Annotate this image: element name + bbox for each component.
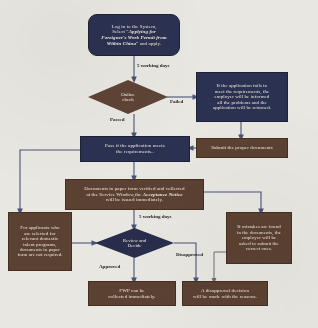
online-check-text: Online check bbox=[121, 92, 135, 103]
submit-line-1: Submit the proper documents bbox=[211, 145, 273, 151]
edge-review-disapproved bbox=[174, 243, 196, 281]
node-review-decide: Review and Decide bbox=[95, 228, 174, 258]
node-application-fails: If the application fails to meet the req… bbox=[196, 72, 288, 122]
node-online-check: Online check bbox=[88, 80, 168, 114]
exempt-line-6: form are not required. bbox=[17, 252, 62, 257]
mistakes-line-5: correct ones. bbox=[237, 246, 281, 251]
node-mistakes-found: If mistakes are found in the documents, … bbox=[226, 212, 292, 264]
fails-line-5: application will be returned. bbox=[213, 105, 271, 110]
node-disapproval-decision: A disapproval decision will be made with… bbox=[182, 281, 268, 306]
mistakes-line-1: If mistakes are found bbox=[237, 224, 281, 229]
edge-label-days-1: 5 working days bbox=[137, 63, 170, 68]
edge-label-disapproved: Disapproved bbox=[176, 252, 203, 257]
flowchart-canvas: Log in to the System, Select “Applying f… bbox=[0, 0, 318, 328]
node-submit-documents: Submit the proper documents bbox=[196, 138, 288, 158]
edge-paper-to-mistakes bbox=[204, 192, 261, 212]
node-paper-documents: Documents in paper form verified and col… bbox=[65, 179, 204, 210]
exempt-line-3: relevant domestic bbox=[17, 236, 62, 241]
edge-label-approved: Approved bbox=[99, 264, 120, 269]
fails-line-1: If the application fails to bbox=[213, 83, 271, 88]
disapproval-line-2: will be made with the reasons. bbox=[193, 294, 257, 300]
review-decide-text: Review and Decide bbox=[123, 238, 147, 249]
edge-mistakes-return bbox=[214, 252, 226, 281]
exempt-line-1: For applicants who bbox=[17, 225, 62, 230]
disapproval-line-1: A disapproval decision bbox=[193, 288, 257, 294]
edge-label-failed: Failed bbox=[170, 99, 183, 104]
node-login-start: Log in to the System, Select “Applying f… bbox=[88, 14, 180, 56]
pass-line-2: the requirements.. bbox=[105, 149, 165, 155]
fwp-line-2: collected immediately. bbox=[108, 294, 155, 300]
node-fwp-collected: FWP can be collected immediately. bbox=[88, 281, 176, 306]
fails-line-3: employer will be informed bbox=[213, 94, 271, 99]
edge-label-passed: Passed bbox=[110, 117, 124, 122]
edge-label-days-2: 5 working days bbox=[139, 214, 172, 219]
node-pass-requirements: Pass if the application meets the requir… bbox=[80, 136, 190, 162]
paper-line-3: will be issued immediately. bbox=[84, 197, 184, 203]
mistakes-line-3: employer will be bbox=[237, 235, 281, 240]
start-line-4: Within China” and apply. bbox=[101, 41, 167, 47]
node-talent-program-exempt: For applicants who are selected for rele… bbox=[8, 212, 72, 271]
